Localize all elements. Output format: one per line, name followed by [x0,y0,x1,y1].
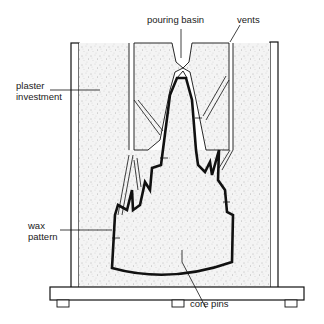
label-plaster: plaster [16,80,45,91]
label-vents: vents [237,14,260,25]
base-plate [50,287,304,307]
label-core-pins: core pins [190,298,229,309]
label-investment: investment [16,91,62,102]
label-wax: wax [28,220,45,231]
label-pattern: pattern [28,231,58,242]
diagram-graphic [0,0,324,324]
label-pouring-basin: pouring basin [147,14,204,25]
casting-diagram: pouring basin vents plaster investment w… [0,0,324,324]
